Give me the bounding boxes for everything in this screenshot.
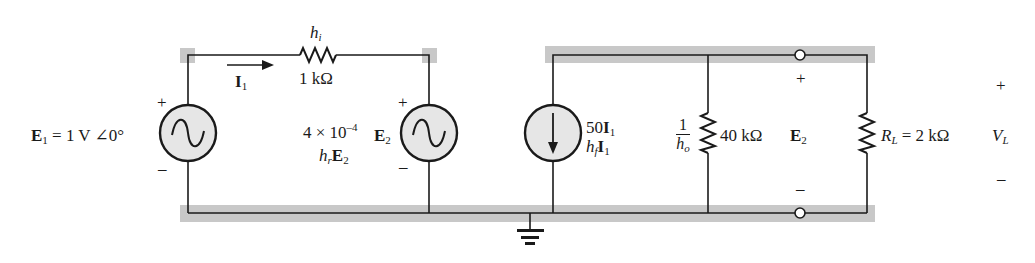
resistor-hi (300, 48, 336, 62)
e1-subscript: 1 (42, 134, 48, 146)
current-source-param-label: hfI1 (586, 138, 610, 157)
current-i1-label: I1 (235, 73, 247, 92)
output-voltage-plus-sign: + (796, 70, 806, 87)
hi-subscript: i (319, 31, 322, 43)
e1-name: E (31, 126, 42, 145)
wire-input-top-right (336, 55, 429, 105)
load-voltage-label: VL (992, 127, 1009, 146)
vl-subscript: L (1002, 134, 1008, 146)
wire-output-top-right (804, 55, 867, 113)
e2-output-name: E (790, 126, 801, 145)
i1-name: I (235, 72, 242, 91)
e2-source-minus-sign: – (399, 158, 408, 175)
e1-minus-sign: – (158, 160, 167, 177)
hf-param: h (586, 137, 595, 156)
ho-subscript: o (684, 142, 690, 154)
feedback-exponent: –4 (347, 121, 358, 133)
e2-source-plus-sign: + (398, 94, 408, 111)
current-source-value-label: 50I1 (586, 119, 615, 138)
cs-controlled-by-subscript: 1 (610, 126, 616, 138)
hr-controlled-by-subscript: 2 (343, 154, 349, 166)
ho-value-label: 40 kΩ (720, 127, 762, 144)
ho-denominator: ho (676, 136, 690, 154)
resistor-1-over-ho (701, 113, 715, 153)
hr-param: h (319, 146, 328, 165)
source-e1 (160, 105, 216, 161)
resistor-rl (860, 113, 874, 153)
i1-subscript: 1 (242, 80, 248, 92)
load-resistor-label: RL = 2 kΩ (881, 127, 950, 146)
feedback-hr-label: hrE2 (319, 147, 349, 166)
current-source (525, 105, 581, 161)
hf-controlled-by-subscript: 1 (604, 145, 610, 157)
vl-name: V (992, 126, 1002, 145)
output-terminal-top (795, 50, 805, 60)
circuit-diagram (0, 0, 1035, 263)
rl-name: R (881, 126, 891, 145)
load-voltage-plus-sign: + (996, 77, 1006, 94)
e2-output-subscript: 2 (801, 134, 807, 146)
output-voltage-label: E2 (790, 127, 807, 146)
e2-feedback-name: E (374, 126, 385, 145)
hi-param: h (310, 23, 319, 42)
feedback-coefficient-label: 4 × 10–4 (303, 122, 358, 141)
hi-value-label: 1 kΩ (299, 70, 333, 87)
e1-value: = 1 V ∠0° (52, 126, 124, 145)
rl-value: = 2 kΩ (902, 126, 950, 145)
cs-controlled-by: I (603, 118, 610, 137)
output-voltage-minus-sign: – (796, 180, 805, 197)
ho-numerator: 1 (679, 117, 687, 133)
hr-controlled-by: E (332, 146, 343, 165)
input-source-label: E1 = 1 V ∠0° (31, 127, 124, 146)
source-e2-feedback (401, 105, 457, 161)
load-voltage-minus-sign: – (997, 170, 1006, 187)
e1-plus-sign: + (157, 94, 167, 111)
e2-feedback-subscript: 2 (385, 134, 391, 146)
feedback-coefficient: 4 × 10 (303, 123, 347, 142)
output-terminal-bottom (795, 208, 805, 218)
cs-gain: 50 (586, 118, 603, 137)
feedback-e2-label: E2 (374, 127, 391, 146)
current-arrow-i1 (227, 60, 274, 70)
ho-fraction: 1 ho (676, 117, 690, 154)
ground-icon (517, 229, 544, 245)
rl-subscript: L (891, 134, 897, 146)
hi-param-label: hi (310, 24, 322, 43)
